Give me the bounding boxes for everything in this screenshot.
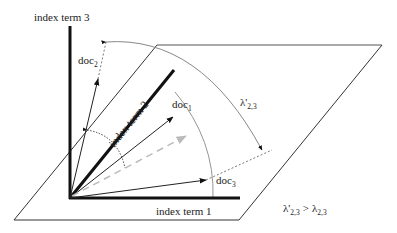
label-doc1: doc1 [172, 98, 192, 113]
label-term2: index term 2 [106, 98, 150, 149]
angle-arc-large [106, 42, 262, 150]
label-term1: index term 1 [156, 205, 212, 217]
label-term3: index term 3 [34, 11, 90, 23]
label-relation: λ'2,3>λ2,3 [283, 202, 327, 217]
diagram-canvas: index term 3 index term 1 index term 2 d… [0, 0, 397, 233]
label-angle: λ'2,3 [240, 96, 257, 111]
vector-projection [72, 136, 186, 196]
vector-doc3 [70, 180, 206, 198]
vector-doc2-extension [98, 42, 106, 79]
label-doc2: doc2 [78, 54, 98, 69]
label-doc3: doc3 [216, 174, 236, 189]
